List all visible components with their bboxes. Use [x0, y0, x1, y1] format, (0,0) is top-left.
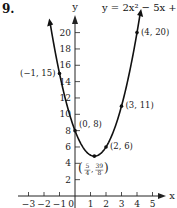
y-tick-label: 16 [60, 60, 72, 70]
vertex-label-num: 39 [96, 162, 104, 169]
x-tick-label: 5 [150, 199, 156, 208]
vertex-label-den: 8 [97, 169, 101, 176]
data-point [120, 104, 124, 108]
y-tick-label: 4 [65, 158, 71, 168]
x-axis-label: x [169, 190, 175, 201]
y-tick-label: 2 [65, 175, 71, 185]
x-tick-label: 3 [119, 199, 125, 208]
x-tick-label: −3 [22, 199, 36, 208]
y-axis-arrow-icon [72, 15, 78, 24]
curve-arrow-left-icon [47, 18, 53, 26]
x-tick-label: −2 [37, 199, 50, 208]
x-tick-label: 4 [134, 199, 140, 208]
point-label: (0, 8) [79, 119, 102, 129]
data-point [93, 154, 97, 158]
vertex-label-comma: , [91, 165, 94, 174]
vertex-label-paren: ) [104, 161, 109, 175]
data-point [135, 31, 139, 35]
y-tick-label: 18 [60, 44, 72, 54]
point-label: (2, 6) [110, 141, 133, 151]
curve-arrow-right-icon [137, 9, 143, 17]
point-label: (−1, 15) [20, 68, 55, 78]
x-tick-label: 0 [68, 199, 74, 208]
vertex-label-den: 4 [85, 169, 89, 176]
x-tick-label: 1 [88, 199, 94, 208]
data-point [104, 145, 108, 149]
point-label: (3, 11) [126, 100, 154, 110]
x-tick-label: 2 [103, 199, 109, 208]
x-tick-label: −1 [53, 199, 66, 208]
parabola-chart: x−3−2−1012345y2468101214161820(−1, 15)(0… [0, 0, 177, 208]
vertex-label-paren: ( [78, 161, 83, 175]
y-tick-label: 20 [60, 28, 72, 38]
y-tick-label: 6 [65, 142, 71, 152]
vertex-label-num: 5 [85, 162, 89, 169]
x-axis-arrow-icon [158, 193, 166, 199]
data-point [73, 129, 77, 133]
y-tick-label: 8 [65, 126, 71, 136]
point-label: (4, 20) [141, 27, 169, 37]
y-axis-label: y [71, 1, 78, 12]
data-point [58, 72, 62, 76]
